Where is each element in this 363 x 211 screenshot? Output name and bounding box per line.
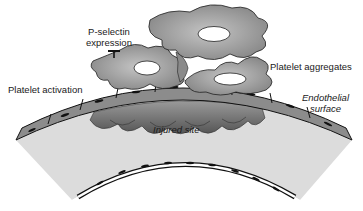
endothelial-label-line1: Endothelial [302,92,349,103]
injured-site-label: Injured site [153,124,199,135]
platelet-aggregates-label: Platelet aggregates [270,61,352,72]
platelet-activation-label: Platelet activation [8,84,82,95]
p-selectin-label-line2: expression [86,37,132,48]
activated-platelet [91,44,184,89]
p-selectin-label: P-selectin expression [86,26,132,48]
endothelial-surface-label: Endothelial surface [302,92,349,114]
platelet-aggregate-right [185,57,272,95]
endothelial-label-line2: surface [302,103,349,114]
p-selectin-label-line1: P-selectin [86,26,132,37]
